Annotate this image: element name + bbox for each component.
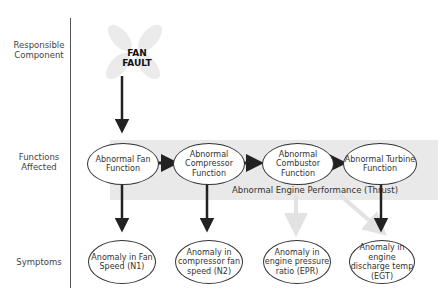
- function-combustor: Abnormal Combustor Function: [262, 143, 334, 185]
- function-fan: Abnormal Fan Function: [87, 143, 159, 185]
- function-compressor: Abnormal Compressor Function: [173, 143, 245, 185]
- symptom-egt: Anomaly in engine discharge temp (EGT): [349, 240, 415, 284]
- fan-fault-label: FANFAULT: [120, 48, 154, 68]
- symptom-epr: Anomaly in engine pressure ratio (EPR): [263, 240, 331, 284]
- function-turbine: Abnormal Turbine Function: [343, 143, 417, 185]
- performance-label: Abnormal Engine Performance (Thrust): [232, 185, 398, 195]
- symptom-n1: Anomaly in Fan Speed (N1): [88, 240, 156, 284]
- symptom-n2: Anomaly in compressor fan speed (N2): [175, 240, 243, 284]
